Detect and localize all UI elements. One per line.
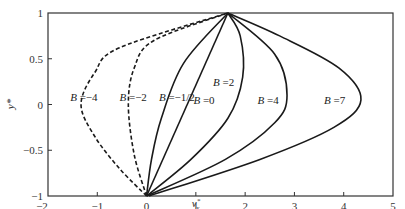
x-tick-label: 5: [390, 200, 396, 209]
x-axis-title: v*x: [192, 197, 201, 209]
y-tick-label: 0.5: [29, 53, 43, 65]
y-tick-label: −0.5: [23, 144, 43, 156]
curve-label: B =0: [193, 94, 215, 106]
curve-labels: B =−4B =−2B =−1/2B =0B =2B =4B =7: [70, 76, 346, 106]
y-tick-label: 0: [38, 99, 44, 111]
y-axis-title: y*: [4, 98, 16, 110]
y-tick-label: −1: [31, 190, 43, 202]
x-tick-label: −1: [91, 200, 103, 209]
x-tick-label: 0: [144, 200, 150, 209]
axis-ticks: −2−1012345−1−0.500.51: [23, 7, 396, 209]
curve-label: B =−4: [70, 91, 98, 103]
x-tick-label: 3: [292, 200, 298, 209]
curve-label: B =−1/2: [159, 91, 195, 103]
curve-label: B =−2: [119, 91, 146, 103]
y-tick-label: 1: [38, 7, 44, 19]
curve-label: B =4: [257, 94, 279, 106]
x-tick-label: 4: [341, 200, 347, 209]
curves: [81, 13, 361, 196]
curve-label: B =2: [213, 76, 234, 88]
curve-label: B =7: [324, 94, 346, 106]
chart-canvas: −2−1012345−1−0.500.51 B =−4B =−2B =−1/2B…: [0, 0, 405, 209]
curve-b-3: [147, 13, 228, 196]
x-tick-label: 2: [242, 200, 248, 209]
